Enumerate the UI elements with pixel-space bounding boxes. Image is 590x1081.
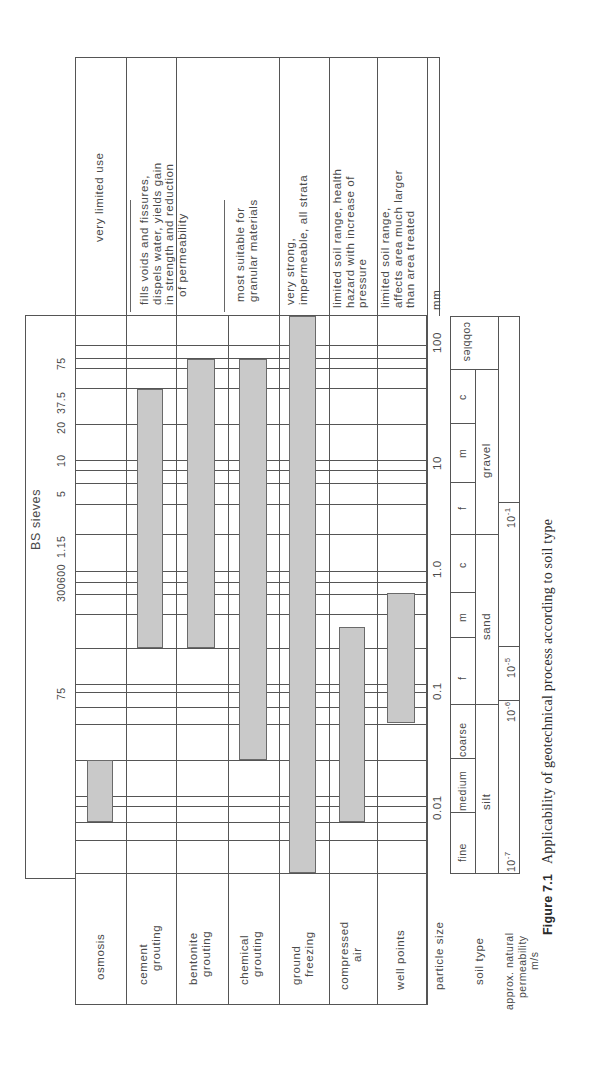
process-label-osmosis: osmosis [94,934,107,980]
soil-group-silt: silt [480,794,493,810]
soil-sub-divider [450,423,475,424]
soil-sub-divider [450,637,475,638]
row-divider [279,57,280,1005]
soil-group-gravel: gravel [480,443,493,478]
row-divider [427,57,428,1005]
grid-line [75,806,427,807]
row-label-soil-type: soil type [473,937,486,985]
bar-cement-grouting [137,389,163,648]
sieve-label-600um: 600 [55,564,68,583]
perm-divider [498,646,520,647]
remarks-brace [130,200,131,312]
particle-tick-0-01: 0.01 [431,795,444,820]
remark-ground-freezing: very strong, impermeable, all strata [284,175,309,305]
soil-sub-divider [450,758,475,759]
soil-sub-divider [450,812,475,813]
process-label-chemical-grouting: chemical grouting [238,931,263,985]
bar-bentonite-grouting [187,359,215,648]
soil-sub-fine: fine [456,843,469,862]
row-divider [377,57,378,1005]
figure: BS sieves 75 300 600 1.15 5 10 20 37.5 7… [0,0,590,1081]
particle-tick-100: 100 [431,332,444,353]
soil-divider [475,369,476,874]
sieve-label-75um: 75 [55,687,68,700]
sieve-label-10: 10 [55,454,68,467]
soil-sub-divider [450,592,475,593]
soil-sub-divider [450,704,498,705]
row-label-permeability: approx. natural permeability m/s [503,932,541,1010]
bar-chemical-grouting [239,359,267,760]
remark-chemical-grouting: most suitable for granular materials [234,199,259,302]
row-divider [329,57,330,1005]
process-label-ground-freezing: ground freezing [290,931,315,985]
perm-value-1e-6: 10-6 [502,701,517,722]
soil-group-sand: sand [480,613,493,640]
perm-value-1e-1: 10-1 [502,507,517,528]
process-label-well-points: well points [394,930,407,990]
sieve-label-37-5: 37.5 [55,392,68,414]
soil-sub-coarse: coarse [456,722,469,757]
remark-compressed-air: limited soil range, health hazard with i… [331,168,369,308]
bs-sieves-box [25,315,75,879]
particle-tick-1-0: 1.0 [431,560,444,578]
grid-line [75,345,427,346]
particle-tick-10: 10 [431,456,444,470]
soil-sub-sand-f: f [456,677,469,680]
soil-sub-sand-c: c [456,562,469,568]
remarks-brace [224,200,225,312]
soil-sub-cobbles: cobbles [462,322,475,362]
remark-well-points: limited soil range, affects area much la… [379,170,417,308]
process-label-bentonite-grouting: bentonite grouting [187,931,212,985]
process-label-compressed-air: compressed air [338,921,363,990]
bar-ground-freezing [289,316,316,873]
soil-sub-medium: medium [456,771,469,811]
bs-sieves-title: BS sieves [30,489,43,550]
grid-line [75,796,427,797]
row-label-particle-size: particle size [433,921,446,990]
process-label-cement-grouting: cement grouting [137,925,162,985]
perm-divider [498,502,520,503]
remark-osmosis: very limited use [93,153,106,243]
unit-label-mm: mm [430,290,443,310]
sieve-label-75mm: 75 [55,357,68,370]
figure-caption: Figure 7.1Applicability of geotechnical … [540,519,556,935]
sieve-label-300um: 300 [55,583,68,602]
sieve-label-5: 5 [55,491,68,497]
soil-sub-divider [450,369,498,370]
perm-value-1e-7: 10-7 [502,851,517,872]
particle-tick-0-1: 0.1 [431,682,444,700]
soil-sub-divider [450,534,498,535]
soil-sub-gravel-c: c [456,394,469,400]
row-divider [228,316,229,1005]
soil-sub-gravel-f: f [456,507,469,510]
bar-compressed-air [339,627,365,822]
bar-well-points [387,593,415,723]
perm-value-1e-5: 10-5 [502,657,517,678]
grid-line [75,822,427,823]
soil-sub-sand-m: m [456,613,469,622]
row-divider [126,57,127,1005]
remark-grouting: fills voids and fissures, dispels water,… [138,162,188,305]
soil-divider [498,316,499,874]
sieve-label-20: 20 [55,421,68,434]
sieve-label-1-15: 1.15 [55,536,68,558]
grid-line [75,840,427,841]
grid-line [75,760,427,761]
bar-osmosis [87,760,113,822]
soil-sub-gravel-m: m [456,449,469,458]
soil-sub-divider [450,482,475,483]
